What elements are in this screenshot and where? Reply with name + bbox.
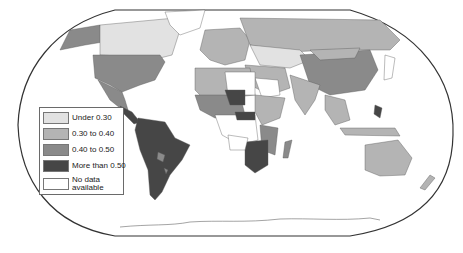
legend-item-more-than-0-50: More than 0.50: [43, 159, 126, 172]
legend-item-0-30-to-0-40: 0.30 to 0.40: [43, 127, 114, 140]
region-car: [235, 112, 255, 120]
legend-item-under-0-30: Under 0.30: [43, 111, 112, 124]
map-legend: Under 0.30 0.30 to 0.40 0.40 to 0.50 Mor…: [39, 107, 124, 195]
legend-item-0-40-to-0-50: 0.40 to 0.50: [43, 143, 114, 156]
region-indonesia: [340, 128, 400, 136]
legend-label: 0.30 to 0.40: [72, 130, 114, 138]
legend-label: Under 0.30: [72, 114, 112, 122]
legend-swatch: [43, 144, 69, 156]
legend-label: No data available: [72, 176, 112, 192]
legend-label: More than 0.50: [72, 162, 126, 170]
legend-label: 0.40 to 0.50: [72, 146, 114, 154]
legend-item-no-data: No data available: [43, 175, 112, 192]
legend-swatch: [43, 160, 69, 172]
legend-swatch: [43, 178, 69, 190]
legend-swatch: [43, 128, 69, 140]
region-canada: [100, 18, 180, 58]
legend-swatch: [43, 112, 69, 124]
